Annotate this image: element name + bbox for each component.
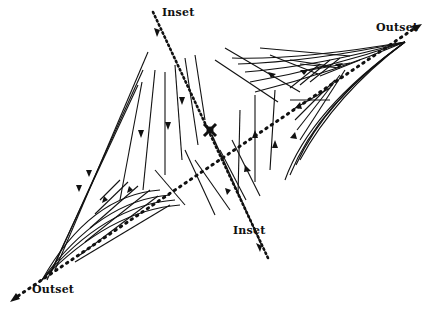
outset-axis (18, 28, 415, 296)
phase-portrait-svg (0, 0, 426, 311)
inset-label-bottom: Inset (233, 224, 265, 237)
outset-label-right: Outset (376, 21, 418, 34)
outset-label-left: Outset (32, 283, 74, 296)
inset-label-top: Inset (162, 6, 194, 19)
flow-lines-upper-right (215, 42, 405, 102)
inset-arrow-top-icon (154, 28, 160, 37)
